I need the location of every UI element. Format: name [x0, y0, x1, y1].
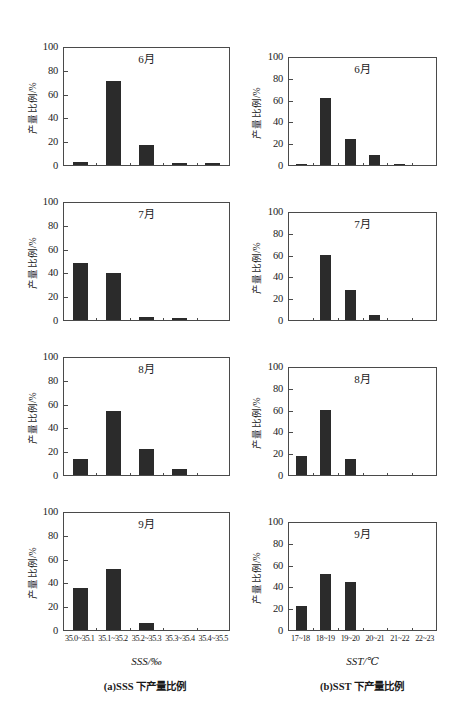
y-tick-label: 100: [259, 362, 283, 372]
bar: [73, 459, 88, 475]
bar: [320, 255, 331, 320]
bar: [369, 155, 380, 165]
y-tick-mark: [64, 452, 68, 453]
x-tick-mark: [313, 318, 314, 321]
x-tick-mark: [412, 473, 413, 476]
x-tick-mark: [387, 163, 388, 166]
y-tick-label: 40: [34, 268, 58, 278]
bar: [345, 290, 356, 320]
y-tick-label: 40: [259, 582, 283, 592]
bar: [320, 410, 331, 475]
y-tick-label: 80: [34, 221, 58, 231]
bar: [139, 623, 154, 630]
bar: [139, 145, 154, 165]
bar: [172, 163, 187, 165]
x-tick-mark: [130, 163, 131, 166]
x-tick-mark: [412, 318, 413, 321]
y-tick-label: 80: [259, 384, 283, 394]
x-tick-label: 35.0~35.1: [63, 634, 96, 643]
y-tick-mark: [64, 297, 68, 298]
y-tick-mark: [289, 454, 293, 455]
y-tick-label: 0: [259, 161, 283, 171]
y-tick-label: 40: [34, 423, 58, 433]
y-tick-mark: [64, 273, 68, 274]
bar: [139, 449, 154, 475]
month-title-sss-july: 7月: [63, 205, 230, 221]
x-tick-mark: [387, 318, 388, 321]
bar: [73, 162, 88, 166]
panel-column-sss: 6月 产量比例/% 020406080100 7月 产量比例/% 0204060…: [0, 0, 240, 717]
bar: [345, 582, 356, 630]
x-tick-label: 17~18: [288, 634, 313, 643]
x-tick-mark: [338, 473, 339, 476]
y-tick-label: 60: [259, 406, 283, 416]
y-tick-mark: [64, 607, 68, 608]
x-tick-label: 35.4~35.5: [197, 634, 230, 643]
x-tick-mark: [197, 473, 198, 476]
y-tick-mark: [64, 250, 68, 251]
x-tick-mark: [197, 628, 198, 631]
bar: [73, 263, 88, 320]
figure-root: 6月 产量比例/% 020406080100 7月 产量比例/% 0204060…: [0, 0, 463, 717]
x-tick-mark: [363, 473, 364, 476]
bar: [172, 318, 187, 320]
y-tick-label: 20: [34, 137, 58, 147]
x-tick-mark: [412, 163, 413, 166]
y-tick-label: 20: [34, 602, 58, 612]
month-title-sst-august: 8月: [288, 370, 437, 386]
x-tick-mark: [130, 318, 131, 321]
bar: [106, 411, 121, 475]
bar: [73, 588, 88, 630]
y-tick-label: 0: [259, 626, 283, 636]
x-tick-mark: [130, 473, 131, 476]
y-tick-label: 60: [259, 251, 283, 261]
x-axis-title-sst: SST/℃: [288, 655, 437, 668]
y-tick-label: 40: [259, 272, 283, 282]
y-tick-label: 80: [34, 376, 58, 386]
x-tick-mark: [163, 163, 164, 166]
x-tick-mark: [96, 163, 97, 166]
subfigure-caption-b: (b)SST 下产量比例: [262, 678, 462, 693]
x-tick-mark: [313, 628, 314, 631]
bar: [345, 459, 356, 475]
bar: [320, 574, 331, 630]
y-tick-mark: [289, 144, 293, 145]
y-tick-mark: [289, 432, 293, 433]
y-tick-mark: [289, 587, 293, 588]
y-tick-mark: [289, 101, 293, 102]
x-tick-mark: [387, 628, 388, 631]
y-tick-label: 100: [34, 507, 58, 517]
x-tick-mark: [363, 163, 364, 166]
y-tick-mark: [289, 566, 293, 567]
x-tick-mark: [313, 163, 314, 166]
x-tick-mark: [363, 318, 364, 321]
month-title-sst-july: 7月: [288, 215, 437, 231]
bar: [106, 273, 121, 320]
bar: [345, 139, 356, 165]
y-tick-mark: [64, 583, 68, 584]
y-tick-label: 100: [259, 207, 283, 217]
bar: [394, 164, 405, 165]
x-tick-mark: [163, 318, 164, 321]
y-axis-label-sss-july: 产量比例/%: [25, 225, 39, 301]
y-tick-label: 40: [34, 113, 58, 123]
x-tick-label: 22~23: [412, 634, 437, 643]
bar: [320, 98, 331, 165]
y-tick-mark: [64, 226, 68, 227]
x-tick-label: 20~21: [363, 634, 388, 643]
y-tick-mark: [64, 95, 68, 96]
bar: [139, 317, 154, 321]
y-tick-label: 40: [34, 578, 58, 588]
y-tick-mark: [289, 234, 293, 235]
y-tick-label: 20: [259, 294, 283, 304]
x-tick-mark: [130, 628, 131, 631]
y-tick-label: 20: [259, 449, 283, 459]
subfigure-caption-a: (a)SSS 下产量比例: [45, 678, 245, 693]
y-tick-label: 80: [34, 66, 58, 76]
y-tick-mark: [64, 142, 68, 143]
x-tick-mark: [163, 628, 164, 631]
y-tick-mark: [64, 405, 68, 406]
y-tick-label: 60: [34, 400, 58, 410]
x-tick-mark: [338, 318, 339, 321]
y-tick-mark: [289, 256, 293, 257]
